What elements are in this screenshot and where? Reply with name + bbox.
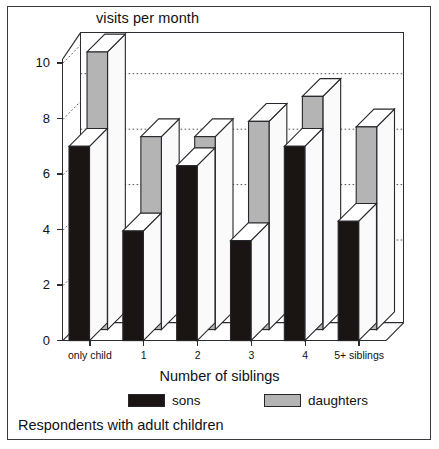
- x-tick-label-2: 2: [195, 349, 201, 361]
- x-tick-label-1: 1: [141, 349, 147, 361]
- chart-legend: sonsdaughters: [0, 391, 439, 409]
- footer-note: Respondents with adult children: [18, 417, 224, 433]
- legend-swatch-daughters: [264, 394, 301, 407]
- x-tick-mark: [251, 341, 252, 346]
- legend-swatch-sons: [128, 394, 165, 407]
- legend-label-daughters: daughters: [308, 393, 368, 408]
- bar-side-face: [359, 203, 377, 340]
- x-tick-label-5: 5+ siblings: [334, 349, 384, 361]
- legend-label-sons: sons: [172, 393, 201, 408]
- x-tick-mark: [143, 341, 144, 346]
- x-axis-title: Number of siblings: [0, 368, 439, 384]
- legend-item-daughters[interactable]: daughters: [264, 391, 368, 409]
- x-tick-label-4: 4: [302, 349, 308, 361]
- legend-item-sons[interactable]: sons: [128, 391, 201, 409]
- plot-area: 0246810 only child12345+ siblings Number…: [0, 0, 439, 449]
- x-tick-label-3: 3: [248, 349, 254, 361]
- chart-page: visits per month: [0, 0, 439, 449]
- x-tick-label-0: only child: [68, 349, 112, 361]
- x-tick-mark: [305, 341, 306, 346]
- x-tick-mark: [197, 341, 198, 346]
- bar-front-face: [338, 221, 359, 340]
- x-tick-mark: [89, 341, 90, 346]
- x-tick-mark: [358, 341, 359, 346]
